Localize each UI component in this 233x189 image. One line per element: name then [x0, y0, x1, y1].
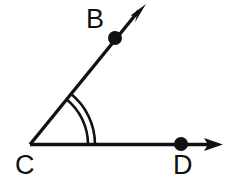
angle-arc-marks	[66, 94, 95, 145]
label-vertex-c: C	[15, 152, 35, 179]
angle-arc-inner	[66, 99, 88, 144]
label-point-b: B	[86, 6, 104, 33]
ray-cd	[30, 138, 223, 151]
point-d-dot	[174, 137, 188, 151]
label-point-d: D	[173, 152, 193, 179]
angle-diagram-canvas	[0, 0, 233, 189]
point-b-dot	[108, 31, 122, 45]
angle-diagram-figure: B C D	[0, 0, 233, 189]
